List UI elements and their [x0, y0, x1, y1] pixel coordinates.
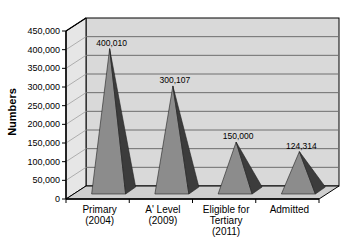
- x-category-line: A' Level: [145, 204, 180, 215]
- x-category-line: Eligible for: [203, 204, 250, 215]
- x-category-label: Admitted: [270, 204, 309, 215]
- y-axis-ticks: 050,000100,000150,000200,000250,000300,0…: [27, 26, 66, 204]
- x-category-line: (2011): [212, 226, 240, 237]
- y-tick-label: 150,000: [27, 138, 60, 148]
- y-tick-label: 300,000: [27, 82, 60, 92]
- x-axis-labels: Primary(2004)A' Level(2009)Eligible forT…: [82, 204, 309, 237]
- x-category-line: Primary: [82, 204, 116, 215]
- x-category-line: Tertiary: [210, 215, 243, 226]
- x-category-label: Primary(2004): [82, 204, 116, 226]
- side-wall: [66, 18, 86, 199]
- x-category-label: A' Level(2009): [145, 204, 180, 226]
- y-tick-label: 50,000: [32, 175, 60, 185]
- data-label: 300,107: [160, 75, 191, 85]
- y-tick-label: 350,000: [27, 63, 60, 73]
- y-tick-label: 100,000: [27, 157, 60, 167]
- x-category-line: (2004): [85, 215, 114, 226]
- pyramid-chart: 050,000100,000150,000200,000250,000300,0…: [0, 0, 352, 250]
- y-tick-label: 450,000: [27, 26, 60, 36]
- data-label: 400,010: [96, 38, 127, 48]
- y-tick-label: 0: [55, 194, 60, 204]
- x-category-label: Eligible forTertiary(2011): [203, 204, 250, 237]
- y-tick-label: 250,000: [27, 101, 60, 111]
- y-tick-label: 200,000: [27, 119, 60, 129]
- data-label: 150,000: [223, 131, 254, 141]
- data-label: 124,314: [286, 141, 317, 151]
- y-tick-label: 400,000: [27, 45, 60, 55]
- x-category-line: Admitted: [270, 204, 309, 215]
- y-axis-title: Numbers: [6, 88, 18, 136]
- x-category-line: (2009): [148, 215, 177, 226]
